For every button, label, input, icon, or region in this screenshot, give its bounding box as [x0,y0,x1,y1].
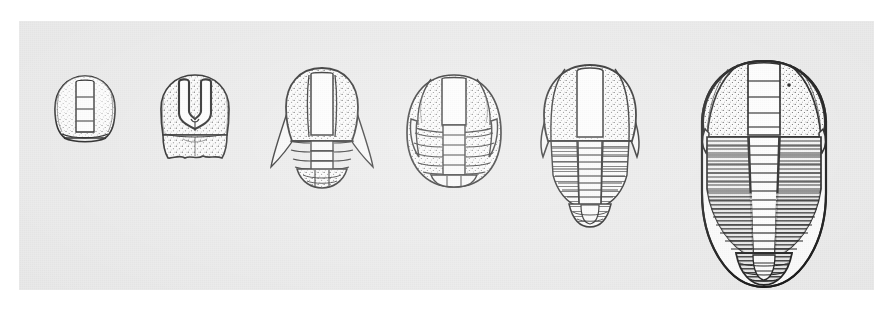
specimen-1-drawing [35,64,135,164]
illustration-plate [19,21,874,290]
specimen-4-drawing [387,53,521,199]
figure-root [0,0,889,312]
specimen-1-protaspis [35,64,135,164]
specimen-5-drawing [517,49,663,235]
specimen-2-drawing [139,55,251,173]
specimen-2-protaspis [139,55,251,173]
specimen-6-drawing [674,43,854,290]
specimen-5-meraspis [517,49,663,235]
specimen-6-holaspis-adult [674,43,854,290]
specimen-3-meraspis [257,51,387,191]
specimen-3-drawing [257,51,387,191]
specimen-4-meraspis [387,53,521,199]
